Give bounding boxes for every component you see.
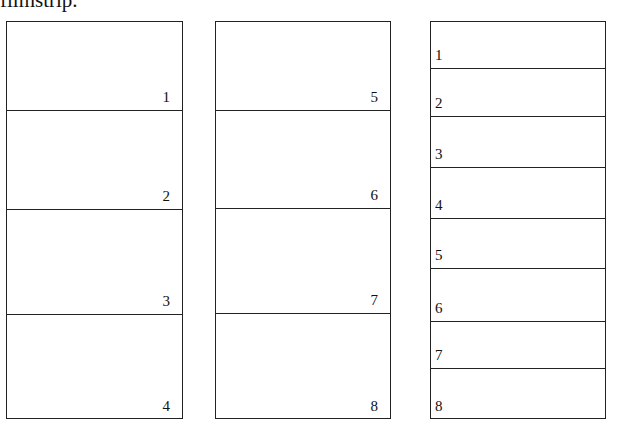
- frame-cell: 4: [431, 167, 605, 218]
- frame-number: 5: [371, 90, 379, 105]
- frame-number: 6: [435, 301, 443, 316]
- frame-cell: 3: [7, 209, 182, 314]
- frame-number: 2: [435, 96, 443, 111]
- strip-1: 1234: [6, 21, 183, 419]
- frame-cell: 8: [431, 368, 605, 419]
- frame-number: 7: [435, 348, 443, 363]
- frame-cell: 6: [216, 110, 390, 208]
- frame-cell: 8: [216, 313, 390, 419]
- frame-number: 2: [163, 189, 171, 204]
- frame-number: 5: [435, 248, 443, 263]
- strip-3: 12345678: [430, 21, 606, 419]
- frame-cell: 5: [216, 21, 390, 110]
- frame-cell: 1: [431, 21, 605, 68]
- frame-cell: 7: [431, 321, 605, 368]
- frame-cell: 4: [7, 314, 182, 419]
- frame-number: 3: [435, 147, 443, 162]
- frame-cell: 2: [7, 110, 182, 209]
- frame-cell: 5: [431, 218, 605, 268]
- frame-number: 6: [371, 188, 379, 203]
- strip-2: 5678: [215, 21, 391, 419]
- frame-number: 8: [435, 399, 443, 414]
- frame-number: 7: [371, 293, 379, 308]
- frame-number: 8: [371, 399, 379, 414]
- frame-cell: 2: [431, 68, 605, 116]
- frame-number: 1: [163, 90, 171, 105]
- frame-number: 3: [163, 294, 171, 309]
- frame-cell: 1: [7, 21, 182, 110]
- frame-cell: 6: [431, 268, 605, 321]
- frame-number: 4: [163, 399, 171, 414]
- caption-text: filmstrip.: [0, 0, 78, 11]
- frame-number: 4: [435, 198, 443, 213]
- frame-number: 1: [435, 48, 443, 63]
- frame-cell: 3: [431, 116, 605, 167]
- frame-cell: 7: [216, 208, 390, 313]
